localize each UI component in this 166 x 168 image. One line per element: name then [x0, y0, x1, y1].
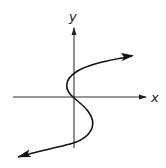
s-curve — [18, 56, 132, 157]
y-axis-label: y — [68, 9, 77, 24]
x-axis-label: x — [150, 90, 159, 105]
graph-svg: y x — [0, 0, 166, 168]
graph-figure: y x — [0, 0, 166, 168]
